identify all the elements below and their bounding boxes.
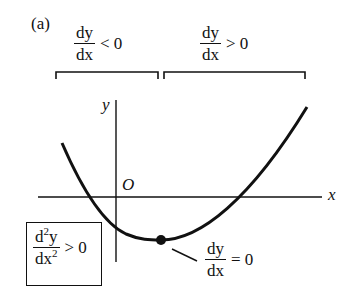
denominator: dx (205, 260, 226, 279)
denominator-dx: dx (35, 249, 52, 268)
minimum-point-label: dy dx = 0 (205, 240, 253, 279)
relation: = 0 (231, 250, 253, 270)
panel-label: (a) (31, 15, 50, 32)
left-bracket (56, 72, 158, 79)
x-axis-label: x (328, 186, 336, 203)
denominator-exponent: 2 (52, 247, 58, 259)
relation: < 0 (100, 34, 122, 54)
relation: > 0 (226, 34, 248, 54)
y-axis-label: y (102, 96, 110, 113)
numerator: dy (200, 24, 221, 44)
right-bracket-label: dy dx > 0 (200, 24, 248, 63)
denominator: dx (74, 44, 95, 63)
left-bracket-label: dy dx < 0 (74, 24, 122, 63)
right-bracket (164, 72, 305, 79)
relation: > 0 (65, 238, 87, 258)
numerator: dy (74, 24, 95, 44)
pointer-line (172, 249, 197, 261)
numerator: dy (205, 240, 226, 260)
minimum-point-dot (156, 235, 166, 245)
numerator-d: d (35, 227, 44, 246)
concavity-label: d2y dx2 > 0 (33, 228, 87, 267)
denominator: dx (200, 44, 221, 63)
numerator-var: y (49, 227, 58, 246)
origin-label: O (122, 176, 134, 193)
curve (62, 107, 307, 240)
